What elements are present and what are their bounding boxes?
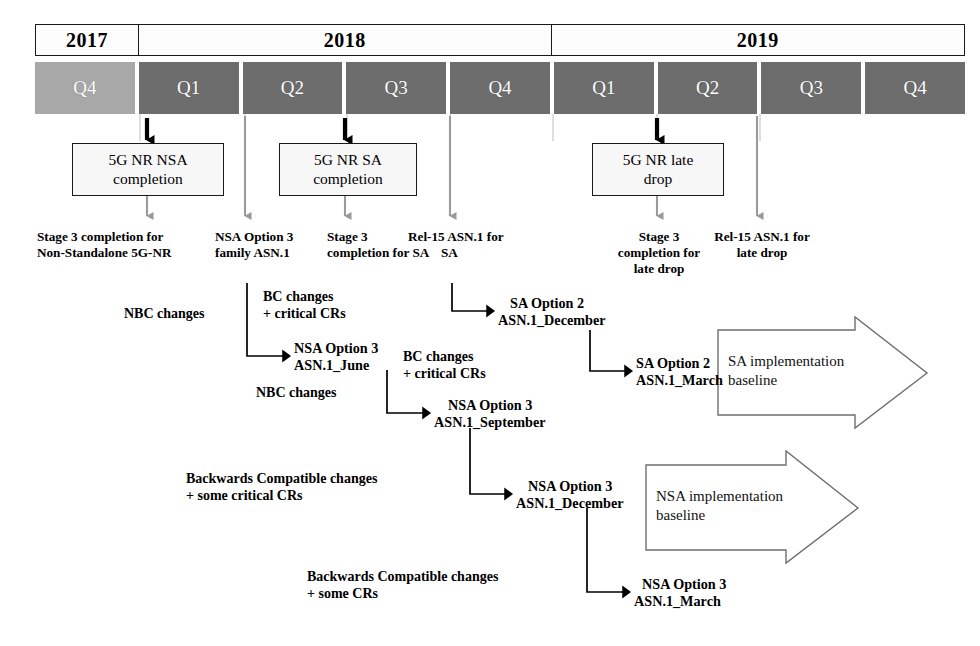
block-arrow-sa-baseline: SA implementation baseline xyxy=(728,352,888,390)
quarter-cell-2019-q2[interactable]: Q2 xyxy=(658,62,758,114)
year-cell-2018: 2018 xyxy=(139,25,551,55)
flow-node-nsa-september[interactable]: NSA Option 3 ASN.1_September xyxy=(434,397,546,431)
edge-label-nbc-1: NBC changes xyxy=(124,305,205,322)
flow-node-nsa-march[interactable]: NSA Option 3 ASN.1_March xyxy=(634,576,726,610)
year-cell-2017: 2017 xyxy=(36,25,139,55)
caption-stage3-nsa: Stage 3 completion for Non-Standalone 5G… xyxy=(37,229,213,261)
milestone-box-sa-completion[interactable]: 5G NR SA completion xyxy=(279,143,417,196)
caption-nsa-option3: NSA Option 3 family ASN.1 xyxy=(215,229,325,261)
edge-label-nbc-2: NBC changes xyxy=(256,384,337,401)
edge-label-backwards-some: Backwards Compatible changes + some CRs xyxy=(307,568,498,602)
quarter-cell-2018-q2[interactable]: Q2 xyxy=(243,62,343,114)
caption-rel15-late-drop: Rel-15 ASN.1 for late drop xyxy=(703,229,821,261)
year-cell-2019: 2019 xyxy=(552,25,965,55)
milestone-label: 5G NR SA completion xyxy=(313,151,383,188)
timeline-quarter-row: Q4 Q1 Q2 Q3 Q4 Q1 Q2 Q3 Q4 xyxy=(35,62,965,114)
block-arrow-sa-baseline-label: SA implementation baseline xyxy=(728,352,888,390)
caption-rel15-asn1-sa: Rel-15 ASN.1 for SA xyxy=(408,229,533,261)
block-arrow-nsa-baseline: NSA implementation baseline xyxy=(656,487,821,525)
milestone-label: 5G NR NSA completion xyxy=(108,151,187,188)
flow-node-sa-march[interactable]: SA Option 2 ASN.1_March xyxy=(636,355,723,389)
quarter-cell-2018-q1[interactable]: Q1 xyxy=(139,62,239,114)
quarter-cell-2017-q4[interactable]: Q4 xyxy=(35,62,135,114)
diagram-canvas: 2017 2018 2019 Q4 Q1 Q2 Q3 Q4 Q1 Q2 Q3 Q… xyxy=(0,0,980,646)
edge-label-backwards-critical: Backwards Compatible changes + some crit… xyxy=(186,470,377,504)
quarter-cell-2019-q1[interactable]: Q1 xyxy=(554,62,654,114)
caption-stage3-late-drop: Stage 3 completion for late drop xyxy=(600,229,718,278)
block-arrow-nsa-baseline-label: NSA implementation baseline xyxy=(656,487,821,525)
flow-node-nsa-december[interactable]: NSA Option 3 ASN.1_December xyxy=(516,478,624,512)
flow-node-nsa-june[interactable]: NSA Option 3 ASN.1_June xyxy=(294,340,378,374)
milestone-label: 5G NR late drop xyxy=(623,151,694,188)
quarter-cell-2018-q4[interactable]: Q4 xyxy=(450,62,550,114)
quarter-cell-2018-q3[interactable]: Q3 xyxy=(346,62,446,114)
edge-label-bc-critical-2: BC changes + critical CRs xyxy=(403,348,486,382)
milestone-box-nsa-completion[interactable]: 5G NR NSA completion xyxy=(72,143,224,196)
edge-label-bc-critical-1: BC changes + critical CRs xyxy=(263,288,346,322)
flow-node-sa-december[interactable]: SA Option 2 ASN.1_December xyxy=(498,295,606,329)
quarter-cell-2019-q4[interactable]: Q4 xyxy=(865,62,965,114)
milestone-box-late-drop[interactable]: 5G NR late drop xyxy=(592,143,724,196)
quarter-cell-2019-q3[interactable]: Q3 xyxy=(761,62,861,114)
timeline-year-row: 2017 2018 2019 xyxy=(35,24,965,56)
